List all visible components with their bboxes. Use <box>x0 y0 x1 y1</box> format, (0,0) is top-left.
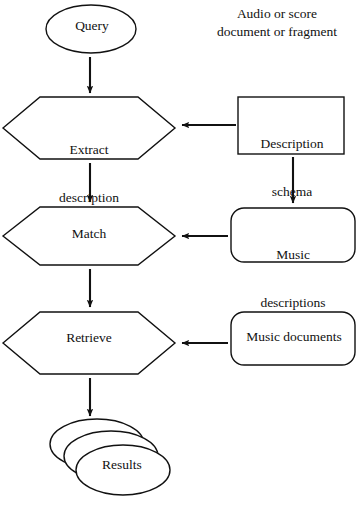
node-results-shape-front <box>76 445 170 495</box>
node-music-descriptions-shape <box>231 208 355 262</box>
caption-line-1: Audio or score <box>197 5 357 23</box>
node-match-shape <box>3 207 175 265</box>
node-description-schema-shape <box>238 97 344 154</box>
caption-line-2: document or fragment <box>197 23 357 41</box>
flowchart-diagram: Audio or score document or fragment Quer… <box>0 0 357 505</box>
node-retrieve-shape <box>3 312 175 374</box>
node-query-shape <box>46 5 136 53</box>
flowchart-canvas <box>0 0 357 505</box>
caption-audio-or-score: Audio or score document or fragment <box>197 5 357 41</box>
node-music-documents-shape <box>231 312 355 365</box>
node-extract-description-shape <box>3 97 175 159</box>
